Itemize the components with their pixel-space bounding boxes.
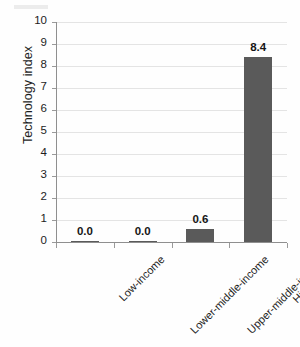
y-axis-line [56, 22, 57, 243]
gridline [56, 22, 287, 23]
y-axis-tick-label: 4 [41, 146, 47, 158]
y-axis-tick-label: 7 [41, 80, 47, 92]
bar-value-label: 0.6 [170, 213, 230, 225]
x-axis-tick-mark [56, 243, 57, 248]
y-axis-title: Technology index [21, 15, 35, 175]
chart-figure: Technology index 109876543210 0.00.00.68… [0, 0, 300, 347]
plot-area [56, 22, 287, 242]
y-axis-tick-label: 3 [41, 168, 47, 180]
y-axis-tick-label: 1 [41, 212, 47, 224]
y-axis-tick-label: 9 [41, 36, 47, 48]
y-axis-tick-label: 0 [41, 234, 47, 246]
y-axis-tick-label: 2 [41, 190, 47, 202]
bar [186, 229, 214, 242]
scan-artifact [14, 5, 48, 9]
x-axis-tick-mark [229, 243, 230, 248]
bar-value-label: 0.0 [113, 225, 173, 237]
y-axis-tick-label: 10 [34, 14, 47, 26]
x-axis-category-label: Low-income [116, 253, 166, 303]
bar-value-label: 8.4 [228, 41, 288, 53]
bar-value-label: 0.0 [55, 225, 115, 237]
x-axis-tick-mark [287, 243, 288, 248]
y-axis-tick-label: 5 [41, 124, 47, 136]
y-axis-tick-label: 8 [41, 58, 47, 70]
x-axis-tick-mark [114, 243, 115, 248]
x-axis-tick-mark [172, 243, 173, 248]
y-axis-tick-label: 6 [41, 102, 47, 114]
bar [244, 57, 272, 242]
